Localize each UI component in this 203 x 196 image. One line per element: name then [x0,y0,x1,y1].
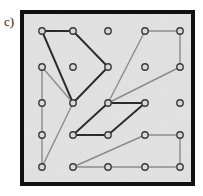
peg-r5-c2 [70,164,76,170]
peg-r4-c1 [39,132,45,138]
peg-r3-c3 [105,100,111,106]
peg-r3-c5 [177,100,183,106]
peg-r4-c2 [70,132,76,138]
peg-r4-c4 [142,132,148,138]
peg-r2-c4 [142,64,148,70]
peg-r5-c4 [142,164,148,170]
peg-r1-c4 [142,28,148,34]
peg-r5-c3 [105,164,111,170]
peg-r5-c1 [39,164,45,170]
board-texture [24,14,191,182]
peg-r3-c1 [39,100,45,106]
peg-r5-c5 [177,164,183,170]
peg-r4-c3 [105,132,111,138]
peg-r3-c4 [142,100,148,106]
peg-r1-c3 [105,28,111,34]
peg-r2-c2 [70,64,76,70]
peg-r3-c2 [70,100,76,106]
geoboard-canvas [0,0,203,196]
peg-r2-c1 [39,64,45,70]
board-noise-overlay [24,14,191,182]
peg-r1-c5 [177,28,183,34]
peg-r2-c3 [105,64,111,70]
geoboard-figure: c) [0,0,203,196]
peg-r1-c1 [39,28,45,34]
peg-r1-c2 [70,28,76,34]
peg-r4-c5 [177,132,183,138]
peg-r2-c5 [177,64,183,70]
